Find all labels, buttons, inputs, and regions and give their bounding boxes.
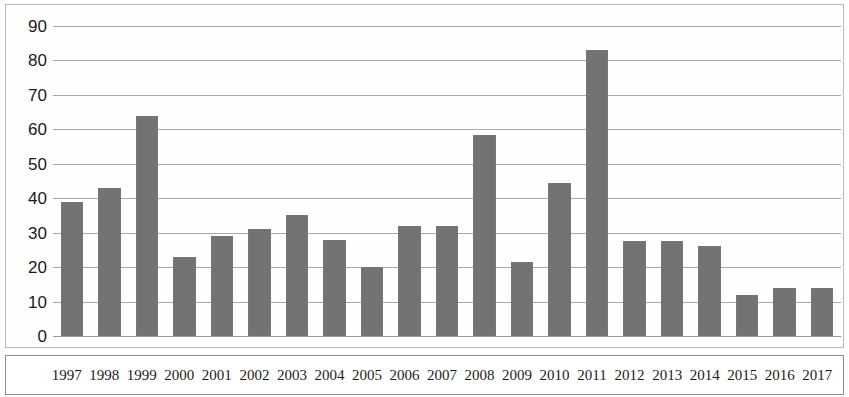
y-axis-tick-label: 40: [28, 190, 47, 207]
bar: [548, 183, 571, 336]
bar: [773, 288, 796, 336]
x-axis-tick-label: 2009: [502, 367, 532, 384]
bar: [623, 241, 646, 336]
x-axis-tick-label: 2015: [727, 367, 757, 384]
x-axis-tick-label: 2008: [465, 367, 495, 384]
x-axis-tick-label: 2006: [389, 367, 419, 384]
y-axis-tick-label: 70: [28, 86, 47, 103]
bar: [398, 226, 421, 336]
bar: [811, 288, 834, 336]
y-axis-tick-label: 60: [28, 121, 47, 138]
y-axis-tick-label: 30: [28, 224, 47, 241]
x-axis-tick-label: 2000: [164, 367, 194, 384]
x-axis-tick-label: 1998: [89, 367, 119, 384]
bar: [211, 236, 234, 336]
bar: [736, 295, 759, 336]
bar: [323, 240, 346, 336]
x-axis-tick-label: 2011: [577, 367, 606, 384]
y-axis-tick-label: 50: [28, 155, 47, 172]
x-axis-tick-label: 2014: [690, 367, 720, 384]
x-axis-tick-labels: 1997199819992000200120022003200420052006…: [48, 356, 836, 394]
x-axis-tick-label: 2010: [540, 367, 570, 384]
bar: [698, 246, 721, 336]
bar: [173, 257, 196, 336]
y-axis-tick-labels: 0102030405060708090: [6, 5, 53, 349]
bar: [248, 229, 271, 336]
x-axis-tick-label: 2005: [352, 367, 382, 384]
x-axis-tick-label: 2007: [427, 367, 457, 384]
bar: [136, 116, 159, 336]
y-axis-tick-label: 90: [28, 18, 47, 35]
y-axis-tick-label: 0: [38, 328, 47, 345]
x-axis-tick-label: 2013: [652, 367, 682, 384]
x-axis-tick-label: 1997: [52, 367, 82, 384]
bar: [586, 50, 609, 336]
bar: [511, 262, 534, 336]
x-axis-tick-label: 2004: [314, 367, 344, 384]
x-axis-label-band: 1997199819992000200120022003200420052006…: [5, 355, 844, 395]
x-axis-tick-label: 2002: [239, 367, 269, 384]
bar: [661, 241, 684, 336]
chart-page: 0102030405060708090 19971998199920002001…: [0, 0, 849, 397]
x-axis-tick-label: 2017: [802, 367, 832, 384]
y-axis-tick-label: 10: [28, 293, 47, 310]
x-axis-tick-label: 2003: [277, 367, 307, 384]
bar: [98, 188, 121, 336]
bar: [361, 267, 384, 336]
bar: [473, 135, 496, 337]
x-axis-tick-label: 2001: [202, 367, 232, 384]
x-axis-tick-label: 2016: [765, 367, 795, 384]
y-axis-tick-label: 80: [28, 52, 47, 69]
bar: [436, 226, 459, 336]
bars-group: [53, 5, 841, 349]
plot-area-frame: 0102030405060708090: [5, 4, 844, 348]
y-axis-tick-label: 20: [28, 259, 47, 276]
bar: [286, 215, 309, 336]
bar: [61, 202, 84, 336]
x-axis-tick-label: 1999: [127, 367, 157, 384]
x-axis-tick-label: 2012: [615, 367, 645, 384]
